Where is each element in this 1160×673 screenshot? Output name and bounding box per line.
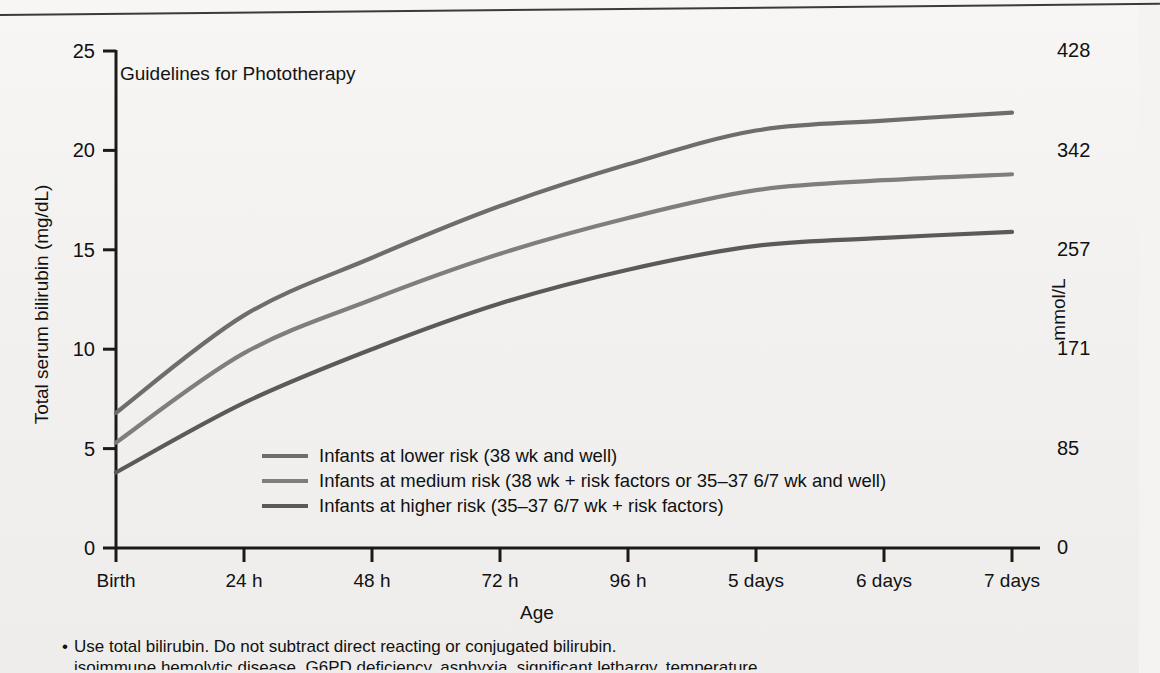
- note-text-1: Use total bilirubin. Do not subtract dir…: [74, 637, 616, 656]
- legend-label-2: Infants at higher risk (35–37 6/7 wk + r…: [319, 495, 724, 517]
- note-line-1: •Use total bilirubin. Do not subtract di…: [62, 636, 1132, 657]
- phototherapy-guidelines-chart: Guidelines for Phototherapy Total serum …: [0, 0, 1139, 600]
- y2-tick-85: 85: [1057, 438, 1117, 458]
- x-axis-title: Age: [520, 603, 554, 622]
- y-tick-25: 25: [49, 41, 95, 61]
- note-text-2: isoimmune hemolytic disease, G6PD defici…: [74, 658, 757, 670]
- chart-curves: [116, 113, 1012, 473]
- chart-title: Guidelines for Phototherapy: [120, 64, 356, 83]
- note-line-2-clipped: isoimmune hemolytic disease, G6PD defici…: [62, 657, 1132, 670]
- x-tick-72-h: 72 h: [445, 571, 555, 590]
- x-tick-48-h: 48 h: [317, 571, 427, 590]
- x-tick-96-h: 96 h: [573, 571, 683, 590]
- legend-row-0: Infants at lower risk (38 wk and well): [262, 443, 886, 468]
- figure-notes: •Use total bilirubin. Do not subtract di…: [62, 636, 1132, 670]
- y-tick-0: 0: [49, 538, 95, 558]
- curve-series-0: [116, 113, 1012, 413]
- curve-series-2: [116, 232, 1012, 473]
- chart-legend: Infants at lower risk (38 wk and well)In…: [262, 443, 886, 518]
- legend-swatch-1: [262, 479, 308, 483]
- y-tick-10: 10: [49, 339, 95, 359]
- legend-label-0: Infants at lower risk (38 wk and well): [319, 445, 617, 467]
- y-tick-5: 5: [49, 439, 95, 459]
- x-tick-24-h: 24 h: [189, 571, 299, 590]
- y2-tick-0: 0: [1057, 537, 1117, 557]
- curve-series-1: [116, 174, 1012, 442]
- legend-swatch-0: [262, 454, 308, 458]
- y2-tick-171: 171: [1057, 338, 1117, 358]
- x-tick-5-days: 5 days: [701, 571, 811, 590]
- y2-tick-257: 257: [1057, 239, 1117, 259]
- y-axis-title: Total serum bilirubin (mg/dL): [32, 145, 51, 465]
- x-tick-7-days: 7 days: [957, 571, 1067, 590]
- bullet-glyph: •: [62, 636, 74, 657]
- x-tick-birth: Birth: [61, 571, 171, 590]
- legend-swatch-2: [262, 504, 308, 508]
- y2-tick-428: 428: [1057, 40, 1117, 60]
- y-tick-20: 20: [49, 140, 95, 160]
- y2-tick-342: 342: [1057, 140, 1117, 160]
- y-tick-15: 15: [49, 240, 95, 260]
- x-tick-6-days: 6 days: [829, 571, 939, 590]
- legend-label-1: Infants at medium risk (38 wk + risk fac…: [319, 470, 886, 492]
- legend-row-1: Infants at medium risk (38 wk + risk fac…: [262, 468, 886, 493]
- legend-row-2: Infants at higher risk (35–37 6/7 wk + r…: [262, 493, 886, 518]
